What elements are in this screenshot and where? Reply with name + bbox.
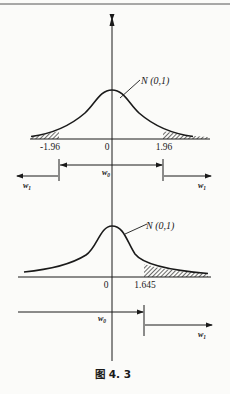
bottom-plot: N (0,1) 0 1.645 w0 w1	[18, 220, 212, 340]
right-rejection-region-label: w1	[198, 181, 206, 191]
tick-label-neg-1-96: -1.96	[40, 142, 60, 152]
left-rejection-region-label: w1	[23, 181, 31, 191]
acceptance-region-label-one-sided: w0	[98, 314, 106, 324]
figure-caption: 图 4. 3	[95, 368, 131, 380]
acceptance-region-label: w0	[102, 168, 110, 178]
tick-label-1-645: 1.645	[134, 280, 156, 290]
left-tail-shading	[31, 131, 59, 139]
top-distribution-label: N (0,1)	[140, 75, 170, 87]
bottom-distribution-label: N (0,1)	[145, 220, 175, 232]
normal-distribution-figure: N (0,1) -1.96 0 1.96 w0 w1 w1 N (0,1) 0 …	[0, 0, 230, 394]
bottom-bell-curve	[24, 226, 208, 274]
tick-label-zero: 0	[105, 142, 110, 152]
rejection-region-label-one-sided: w1	[198, 330, 206, 340]
tick-label-1-96: 1.96	[156, 142, 173, 152]
axis-arrow-icon	[110, 16, 115, 26]
bottom-label-leader	[125, 224, 147, 234]
top-label-leader	[120, 80, 140, 98]
top-plot: N (0,1) -1.96 0 1.96 w0 w1 w1	[17, 75, 211, 191]
tick-label-zero-bottom: 0	[104, 280, 109, 290]
acceptance-arrow-left-icon	[60, 163, 67, 168]
